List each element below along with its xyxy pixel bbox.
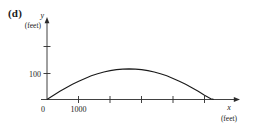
- trajectory-curve: [47, 69, 213, 99]
- y-axis-unit-label: (feet): [25, 21, 42, 30]
- x-tick-label-1000: 1000: [71, 105, 87, 114]
- figure-container: (d) y (feet) x (feet) 100 1000: [0, 0, 257, 125]
- origin-label: 0: [41, 105, 45, 114]
- y-axis-variable-label: y: [39, 11, 44, 20]
- x-axis-arrowhead: [234, 97, 240, 102]
- x-axis-variable-label: x: [226, 103, 231, 112]
- y-axis-arrowhead: [45, 17, 50, 23]
- x-axis-unit-label: (feet): [221, 114, 238, 123]
- coordinate-plot: y (feet) x (feet) 100 1000 0: [0, 0, 257, 125]
- y-tick-label-100: 100: [29, 70, 41, 79]
